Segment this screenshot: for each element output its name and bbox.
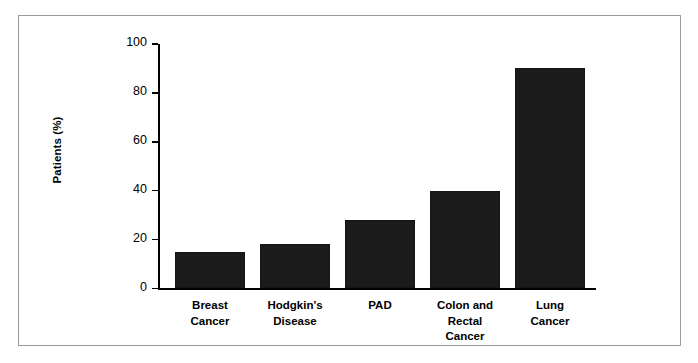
bar-chart-plot-area: Patients (%) 020406080100 Breast CancerH… <box>19 16 682 347</box>
y-tick-label: 0 <box>140 280 147 294</box>
y-tick-40: 40 <box>152 190 158 192</box>
y-axis-title: Patients (%) <box>51 80 63 220</box>
y-tick-label: 60 <box>133 133 147 147</box>
bar <box>515 68 585 288</box>
bar-category-label: Hodgkin's Disease <box>248 298 342 329</box>
y-axis-line <box>158 44 160 289</box>
bar-category-label: Breast Cancer <box>163 298 257 329</box>
x-axis-line <box>158 288 596 290</box>
y-tick-80: 80 <box>152 92 158 94</box>
bar-category-label: Lung Cancer <box>503 298 597 329</box>
y-tick-label: 80 <box>133 84 147 98</box>
y-tick-label: 40 <box>133 182 147 196</box>
figure-frame: Patients (%) 020406080100 Breast CancerH… <box>18 15 681 346</box>
y-tick-100: 100 <box>152 43 158 45</box>
y-tick-label: 100 <box>126 35 147 49</box>
y-tick-60: 60 <box>152 141 158 143</box>
bar-category-label: Colon and Rectal Cancer <box>418 298 512 345</box>
bar <box>175 252 245 289</box>
bar <box>260 244 330 288</box>
y-tick-20: 20 <box>152 239 158 241</box>
y-tick-0: 0 <box>152 288 158 290</box>
bar <box>345 220 415 288</box>
y-tick-label: 20 <box>133 231 147 245</box>
bar-category-label: PAD <box>333 298 427 314</box>
bar <box>430 191 500 289</box>
